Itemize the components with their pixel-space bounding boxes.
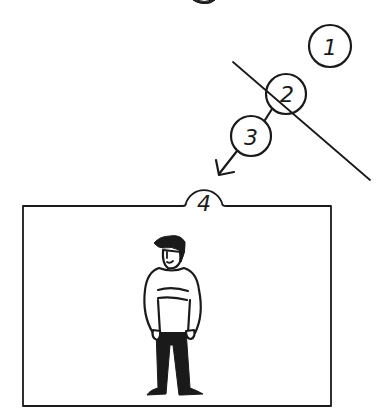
step-3-label: 3 [244,125,258,150]
arrow-3-to-4 [216,151,237,175]
sweater [144,268,200,333]
title-fragment [193,0,215,4]
step-1-label: 1 [323,35,337,60]
connector-2-3 [265,109,272,120]
person-figure [144,236,203,395]
step-4-label: 4 [197,191,211,216]
head [163,250,181,268]
left-hand [153,330,161,340]
right-hand [186,330,195,339]
step-1: 1 [309,25,351,67]
step-2-label: 2 [280,82,294,107]
diagram-canvas: 1 2 3 4 [0,0,377,417]
